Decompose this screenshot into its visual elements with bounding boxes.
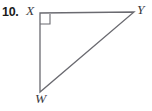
triangle-drawing	[0, 0, 152, 111]
geometry-figure: 10. X Y W	[0, 0, 152, 111]
vertex-label-x: X	[26, 4, 34, 18]
vertex-label-w: W	[35, 92, 46, 106]
right-angle-marker-icon	[40, 14, 50, 24]
triangle-outline-path	[40, 12, 134, 92]
vertex-label-y: Y	[137, 3, 145, 17]
